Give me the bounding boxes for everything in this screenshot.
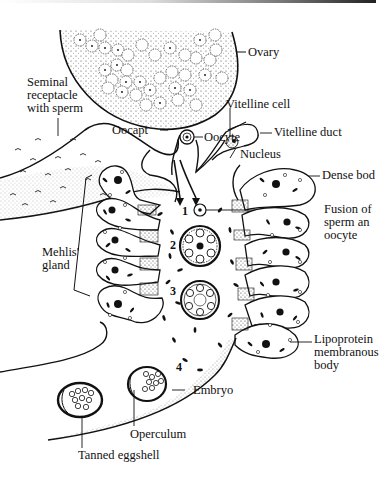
mehlis-gland-right: [232, 169, 320, 359]
label-vitelline-duct: Vitelline duct: [274, 126, 342, 139]
label-oocapt: Oocapt: [112, 124, 148, 137]
label-fusion-3: oocyte: [324, 229, 357, 242]
label-mehlis-gland-2: gland: [42, 259, 70, 272]
label-seminal-receptacle-3: with sperm: [27, 102, 83, 115]
stage-number-4: 4: [176, 360, 182, 375]
label-ovary: Ovary: [248, 46, 279, 59]
label-lipoprotein-3: body: [314, 359, 339, 372]
stage-3-egg: [181, 281, 219, 319]
uterus: [0, 322, 236, 440]
label-nucleus: Nucleus: [240, 148, 281, 161]
stage-number-3: 3: [170, 284, 176, 299]
stage-number-1: 1: [182, 204, 188, 219]
label-tanned-eggshell: Tanned eggshell: [78, 449, 159, 462]
stage-2-egg: [180, 226, 220, 266]
label-oocyte: Oocyte: [204, 131, 240, 144]
tanned-eggshell-egg: [58, 383, 102, 448]
label-vitelline-cell: Vitelline cell: [226, 98, 290, 111]
oocyte: [180, 130, 203, 144]
label-embryo: Embryo: [193, 384, 233, 397]
stage-number-2: 2: [170, 238, 176, 253]
ovary: [60, 29, 246, 129]
label-dense-body: Dense bod: [322, 169, 375, 182]
ootype-wall: [142, 150, 240, 206]
label-operculum: Operculum: [130, 428, 186, 441]
